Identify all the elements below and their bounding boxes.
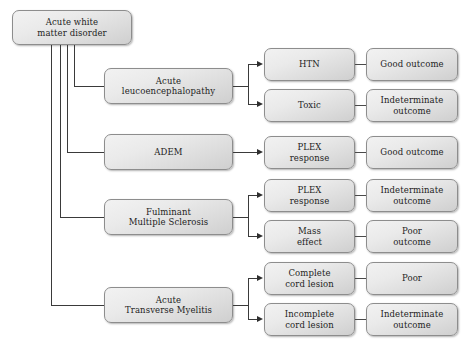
node-category-adem[interactable]: ADEM <box>104 134 233 170</box>
node-condition-7-label: Incomplete cord lesion <box>285 309 334 329</box>
branch-riser-fulminant-ms <box>248 195 249 237</box>
branch-arrowhead-fulminant-ms-row4 <box>257 192 263 198</box>
node-condition-1-label: HTN <box>299 59 320 69</box>
node-outcome-2[interactable]: Indeterminate outcome <box>366 89 458 122</box>
node-outcome-5-label: Poor outcome <box>393 226 431 246</box>
node-outcome-4[interactable]: Indeterminate outcome <box>366 179 458 212</box>
node-condition-1[interactable]: HTN <box>264 48 355 81</box>
node-condition-5[interactable]: Mass effect <box>264 220 355 253</box>
link-row-6 <box>355 278 366 279</box>
node-category-leucoencephalopathy-label: Acute leucoencephalopathy <box>122 76 215 96</box>
link-row-4 <box>355 195 366 196</box>
branch-stem-leuco <box>233 86 249 87</box>
node-condition-3-label: PLEX response <box>290 142 330 162</box>
branch-stem-adem <box>233 152 258 153</box>
trunk-line-adem <box>67 45 68 152</box>
trunk-elbow-adem <box>67 152 104 153</box>
node-outcome-6[interactable]: Poor <box>366 262 458 295</box>
node-condition-6[interactable]: Complete cord lesion <box>264 262 355 295</box>
node-outcome-5[interactable]: Poor outcome <box>366 220 458 253</box>
node-root-label: Acute white matter disorder <box>37 17 107 37</box>
node-outcome-6-label: Poor <box>402 273 422 283</box>
trunk-line-fulminant-ms <box>60 45 61 217</box>
node-outcome-7[interactable]: Indeterminate outcome <box>366 303 458 336</box>
link-row-3 <box>355 152 366 153</box>
branch-arrowhead-transverse-myelitis-row7 <box>257 316 263 322</box>
branch-riser-leuco <box>248 64 249 104</box>
node-condition-4-label: PLEX response <box>290 185 330 205</box>
link-row-7 <box>355 319 366 320</box>
node-outcome-1-label: Good outcome <box>380 59 443 69</box>
branch-arrowhead-leuco-row2 <box>257 101 263 107</box>
branch-arrowhead-fulminant-ms-row5 <box>257 233 263 239</box>
node-condition-6-label: Complete cord lesion <box>285 268 334 288</box>
node-root[interactable]: Acute white matter disorder <box>12 10 132 45</box>
branch-arrowhead-leuco-row1 <box>257 61 263 67</box>
link-row-1 <box>355 64 366 65</box>
trunk-elbow-transverse-myelitis <box>51 305 104 306</box>
node-category-fulminant-ms[interactable]: Fulminant Multiple Sclerosis <box>104 199 233 235</box>
node-condition-2-label: Toxic <box>298 100 321 110</box>
node-outcome-3[interactable]: Good outcome <box>366 136 458 169</box>
link-row-5 <box>355 236 366 237</box>
trunk-line-leuco <box>74 45 75 86</box>
node-outcome-4-label: Indeterminate outcome <box>381 185 444 205</box>
node-category-fulminant-ms-label: Fulminant Multiple Sclerosis <box>129 207 209 227</box>
trunk-elbow-fulminant-ms <box>60 217 104 218</box>
trunk-elbow-leuco <box>74 86 104 87</box>
node-category-transverse-myelitis-label: Acute Transverse Myelitis <box>125 295 212 315</box>
node-condition-5-label: Mass effect <box>297 226 322 246</box>
node-condition-3[interactable]: PLEX response <box>264 136 355 169</box>
node-category-transverse-myelitis[interactable]: Acute Transverse Myelitis <box>104 287 233 323</box>
branch-arrowhead-transverse-myelitis-row6 <box>257 275 263 281</box>
link-row-2 <box>355 105 366 106</box>
node-category-adem-label: ADEM <box>154 147 182 157</box>
node-condition-2[interactable]: Toxic <box>264 89 355 122</box>
node-outcome-3-label: Good outcome <box>380 147 443 157</box>
branch-riser-transverse-myelitis <box>248 278 249 319</box>
node-category-leucoencephalopathy[interactable]: Acute leucoencephalopathy <box>104 68 233 104</box>
trunk-line-transverse-myelitis <box>51 45 52 305</box>
node-outcome-1[interactable]: Good outcome <box>366 48 458 81</box>
node-outcome-7-label: Indeterminate outcome <box>381 309 444 329</box>
node-condition-4[interactable]: PLEX response <box>264 179 355 212</box>
node-outcome-2-label: Indeterminate outcome <box>381 95 444 115</box>
branch-stem-transverse-myelitis <box>233 305 249 306</box>
branch-arrowhead-adem <box>257 149 263 155</box>
flowchart-canvas: Acute white matter disorder Acute leucoe… <box>0 0 462 352</box>
node-condition-7[interactable]: Incomplete cord lesion <box>264 303 355 336</box>
branch-stem-fulminant-ms <box>233 217 249 218</box>
